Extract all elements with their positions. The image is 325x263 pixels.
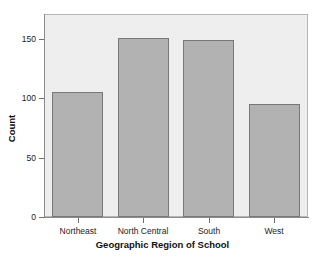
y-axis-line (44, 14, 45, 218)
x-axis-tick-label: Northeast (60, 226, 97, 236)
y-axis-title-text: Count (7, 114, 18, 141)
y-axis-tick-label: 100 (22, 94, 36, 103)
x-axis-line (44, 217, 309, 218)
bar (118, 38, 169, 217)
bar (249, 104, 300, 217)
y-axis-tick (39, 98, 44, 99)
y-axis-tick-label: 50 (27, 154, 36, 163)
y-axis-tick-label: 150 (22, 35, 36, 44)
x-axis-tick (209, 218, 210, 223)
bars-layer (45, 15, 307, 217)
x-axis-tick-label: West (264, 226, 283, 236)
x-axis-tick-label: North Central (118, 226, 169, 236)
x-axis-tick (143, 218, 144, 223)
bar (183, 40, 234, 217)
y-axis-tick (39, 39, 44, 40)
y-axis-title: Count (3, 98, 21, 158)
bar-chart: 050100150 NortheastNorth CentralSouthWes… (0, 0, 325, 263)
x-axis-title: Geographic Region of School (0, 239, 325, 250)
x-axis-tick-label: South (198, 226, 220, 236)
y-axis-tick (39, 158, 44, 159)
bar (52, 92, 103, 217)
y-axis-tick-label: 0 (31, 213, 36, 222)
x-axis-tick (274, 218, 275, 223)
x-axis-tick (78, 218, 79, 223)
y-axis-tick (39, 217, 44, 218)
